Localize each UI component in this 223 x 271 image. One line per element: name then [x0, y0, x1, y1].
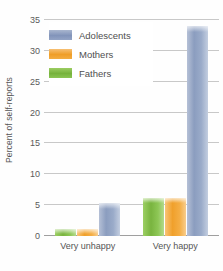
bar-fathers: [143, 198, 164, 236]
legend-item: Fathers: [49, 64, 153, 82]
legend-item: Adolescents: [49, 26, 153, 44]
y-axis-tick-label: 10: [10, 169, 44, 179]
bar-adolescents: [99, 203, 120, 236]
y-axis-tick-label: 0: [10, 231, 44, 241]
bar-chart: Percent of self-reports 05101520253035 V…: [0, 0, 223, 271]
legend-item-label: Mothers: [79, 49, 113, 60]
bar-adolescents: [187, 26, 208, 236]
bar-mothers: [165, 198, 186, 236]
legend-swatch-icon: [49, 68, 72, 78]
legend-swatch-icon: [49, 30, 72, 40]
x-axis-tick-label: Very happy: [153, 241, 198, 251]
legend-item: Mothers: [49, 45, 153, 63]
y-axis-tick-label: 30: [10, 46, 44, 56]
y-axis-tick-label: 15: [10, 138, 44, 148]
y-axis-tick-label: 25: [10, 77, 44, 87]
legend-item-label: Fathers: [79, 68, 111, 79]
x-axis-tick-labels: Very unhappyVery happy: [44, 241, 219, 261]
bar-mothers: [77, 229, 98, 236]
y-axis-tick-label: 20: [10, 108, 44, 118]
chart-legend: AdolescentsMothersFathers: [49, 22, 153, 86]
bar-fathers: [55, 229, 76, 236]
y-axis-tick-label: 5: [10, 200, 44, 210]
legend-swatch-icon: [49, 49, 72, 59]
x-axis-tick-label: Very unhappy: [60, 241, 115, 251]
y-axis-tick-labels: 05101520253035: [0, 20, 44, 236]
y-axis-tick-label: 35: [10, 15, 44, 25]
legend-item-label: Adolescents: [79, 30, 131, 41]
